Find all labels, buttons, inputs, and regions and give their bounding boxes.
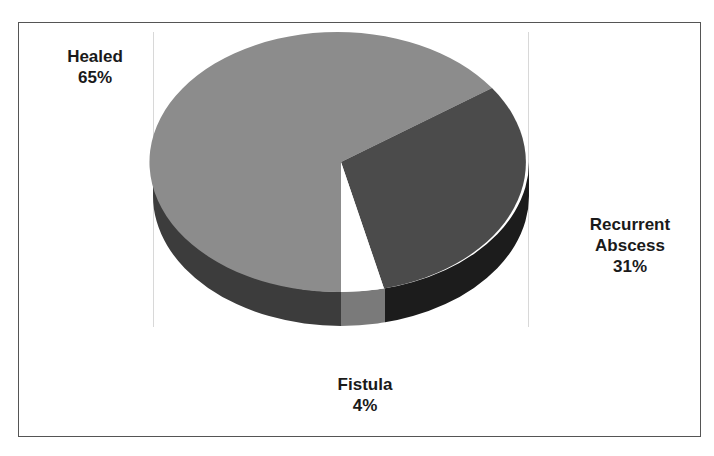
label-healed-name: Healed [50,46,140,67]
data-label-healed: Healed 65% [50,46,140,88]
data-label-fistula: Fistula 4% [320,374,410,416]
label-recurrent-pct: 31% [560,256,700,277]
pie-top-faces [149,32,525,292]
label-fistula-pct: 4% [320,395,410,416]
label-recurrent-name-line2: Abscess [560,235,700,256]
label-healed-pct: 65% [50,67,140,88]
label-recurrent-name-line1: Recurrent [560,214,700,235]
label-fistula-name: Fistula [320,374,410,395]
data-label-recurrent-abscess: Recurrent Abscess 31% [560,214,700,277]
